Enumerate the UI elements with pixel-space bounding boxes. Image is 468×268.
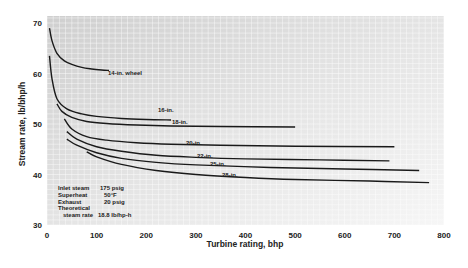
- annotation-label: Inlet steam: [58, 185, 89, 191]
- y-tick-label: 60: [33, 70, 42, 79]
- curve-label: 18-in.: [172, 119, 188, 125]
- x-tick-label: 300: [189, 231, 203, 240]
- annotation-label: Theoretical: [58, 205, 90, 211]
- annotation-value: 18.8 lb/hp-h: [98, 212, 132, 218]
- curve-label: 14-in. wheel: [108, 70, 142, 76]
- x-tick-label: 0: [45, 231, 50, 240]
- y-tick-label: 30: [33, 221, 42, 230]
- curve-label: 28-in.: [222, 172, 238, 178]
- annotation-value: 175 psig: [100, 185, 124, 191]
- y-tick-label: 70: [33, 19, 42, 28]
- x-tick-label: 500: [288, 231, 302, 240]
- annotation-label: steam rate: [63, 212, 94, 218]
- steam-rate-chart: 14-in. wheel16-in.18-in.20-in.22-in.25-i…: [0, 0, 468, 268]
- curve-label: 25-in.: [210, 161, 226, 167]
- x-tick-label: 700: [388, 231, 402, 240]
- annotation-value: 50°F: [104, 192, 117, 198]
- curve-label: 20-in.: [186, 140, 202, 146]
- curve-label: 16-in.: [158, 107, 174, 113]
- annotation-label: Exhaust: [58, 199, 81, 205]
- x-tick-label: 600: [338, 231, 352, 240]
- annotation-value: 20 psig: [104, 199, 125, 205]
- y-tick-label: 40: [33, 171, 42, 180]
- y-axis-ticks: 3040506070: [33, 19, 42, 230]
- annotation-label: Superheat: [58, 192, 87, 198]
- y-axis-label: Stream rate, lb/bhp/h: [17, 82, 27, 167]
- x-axis-label: Turbine rating, bhp: [207, 239, 284, 249]
- x-tick-label: 200: [140, 231, 154, 240]
- curve-label: 22-in.: [197, 153, 213, 159]
- x-tick-label: 800: [437, 231, 451, 240]
- x-tick-label: 100: [90, 231, 104, 240]
- y-tick-label: 50: [33, 120, 42, 129]
